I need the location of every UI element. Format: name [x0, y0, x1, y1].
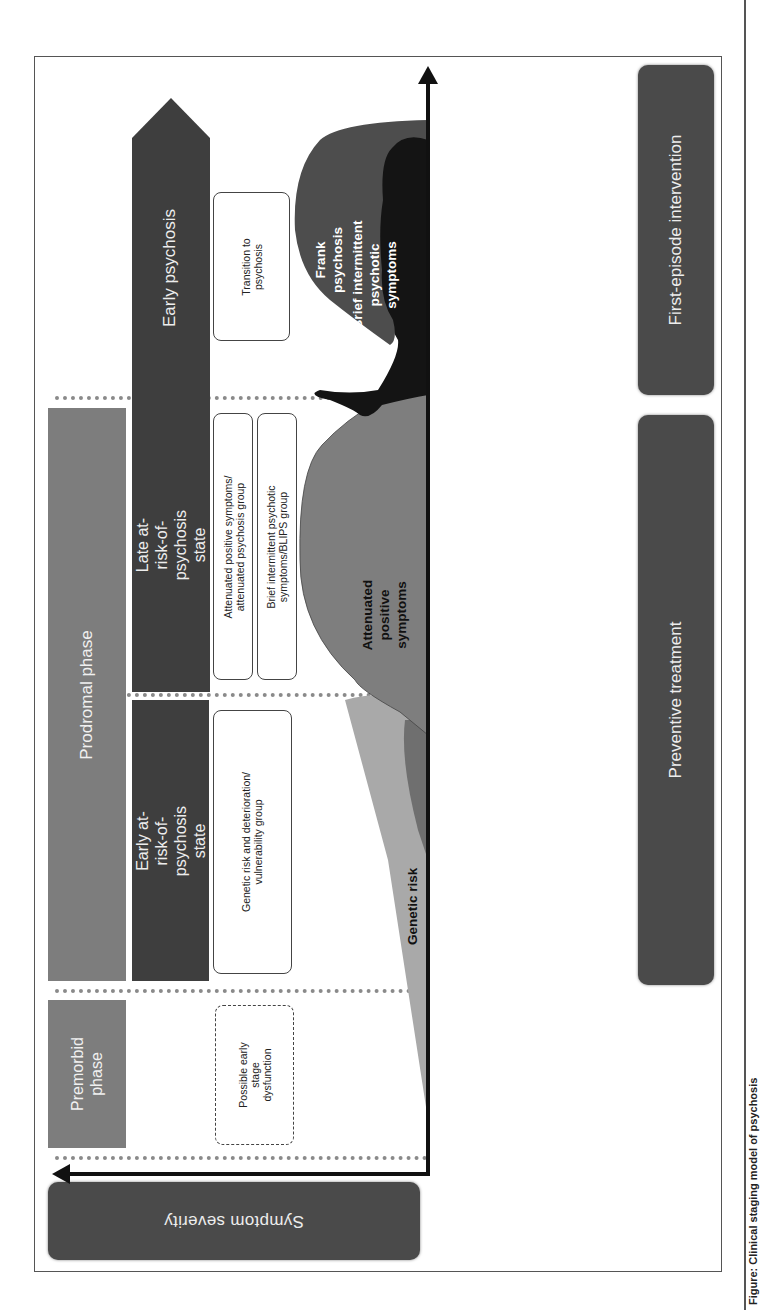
svg-text:Frank: Frank — [313, 241, 328, 278]
preventive-treatment-label: Preventive treatment — [666, 622, 686, 779]
svg-text:Brief intermittent: Brief intermittent — [350, 220, 365, 329]
first-episode-intervention-bar: First-episode intervention — [638, 65, 714, 395]
svg-text:psychotic: psychotic — [367, 243, 382, 307]
time-axis-arrowhead — [418, 66, 438, 84]
svg-text:psychosis: psychosis — [330, 227, 345, 293]
svg-text:symptoms: symptoms — [384, 241, 399, 309]
attenuated-area — [300, 385, 428, 735]
genetic-risk-label: Genetic risk — [405, 867, 420, 945]
svg-text:positive: positive — [377, 589, 392, 641]
attenuated-label: Attenuated positive symptoms — [360, 580, 409, 651]
svg-text:Attenuated: Attenuated — [360, 580, 375, 651]
preventive-treatment-bar: Preventive treatment — [638, 415, 714, 985]
severity-axis-arrowhead — [52, 1164, 70, 1184]
first-episode-intervention-label: First-episode intervention — [666, 135, 686, 326]
svg-text:symptoms: symptoms — [394, 581, 409, 649]
